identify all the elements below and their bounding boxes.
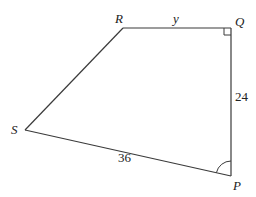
side-label-ps: 36: [118, 150, 132, 165]
side-label-rq: y: [171, 11, 179, 26]
vertex-label-s: S: [11, 122, 18, 137]
vertex-label-q: Q: [235, 14, 245, 29]
side-label-qp: 24: [235, 89, 249, 104]
angle-arc-p: [216, 161, 231, 173]
quadrilateral-diagram: S R Q P y 24 36: [0, 0, 256, 197]
vertex-label-p: P: [232, 178, 241, 193]
edge-s-r: [25, 28, 123, 130]
right-angle-marker-q: [224, 28, 231, 35]
vertex-label-r: R: [114, 11, 123, 26]
